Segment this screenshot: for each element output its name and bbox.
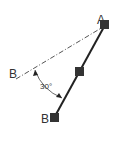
label-a: A [97,13,105,27]
diagram-canvas: A B B 30° [0,0,122,146]
handle-b-rotated[interactable] [50,113,59,122]
label-b-reference: B [9,67,17,81]
angle-label: 30° [40,82,52,91]
label-b-rotated: B [41,112,49,126]
handle-midpoint[interactable] [75,67,84,76]
angle-arrow-start-icon [33,70,38,76]
rotation-diagram: A B B 30° [0,0,122,146]
